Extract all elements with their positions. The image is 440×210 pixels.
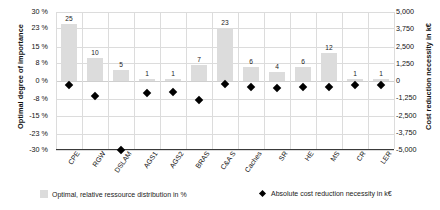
data-point-marker (325, 82, 333, 90)
bar (217, 28, 234, 81)
bar (87, 58, 104, 81)
plot-area: 25105117236461211 (56, 12, 394, 150)
bar-swatch-icon (40, 190, 48, 198)
data-point-marker (299, 83, 307, 91)
bar (113, 70, 130, 82)
bar-value-label: 1 (160, 70, 186, 77)
bar-value-label: 6 (238, 58, 264, 65)
chart-column: 23 (212, 12, 238, 149)
data-point-marker (65, 81, 73, 89)
gridline-vertical (394, 12, 395, 149)
y-axis-right-ticks: 5,0003,7502,5001,2500-1,250-2,500-3,750-… (396, 0, 432, 210)
bar (295, 67, 312, 81)
bar (321, 53, 338, 81)
y-axis-right-tick: 5,000 (396, 8, 432, 16)
legend-label-bars: Optimal, relative ressource distribution… (52, 191, 187, 198)
y-axis-left-tick: -23 % (14, 130, 48, 138)
data-point-marker (91, 92, 99, 100)
data-point-marker (143, 89, 151, 97)
chart-column: 25 (56, 12, 82, 149)
bar-value-label: 5 (108, 61, 134, 68)
y-axis-left-tick: -8 % (14, 95, 48, 103)
chart-column: 1 (134, 12, 160, 149)
bar-value-label: 1 (342, 70, 368, 77)
chart-legend: Optimal, relative ressource distribution… (40, 190, 440, 206)
series-layer: 25105117236461211 (56, 12, 394, 149)
bar-value-label: 1 (134, 70, 160, 77)
bar (191, 65, 208, 81)
chart-container: Optimal degree of importance Cost reduct… (0, 0, 440, 210)
chart-column: 1 (342, 12, 368, 149)
y-axis-right-tick: 0 (396, 77, 432, 85)
chart-column: 6 (290, 12, 316, 149)
bar (243, 67, 260, 81)
y-axis-left-tick: 0 % (14, 77, 48, 85)
y-axis-left-ticks: 30 %23 %15 %8 %0 %-8 %-15 %-23 %-30 % (14, 0, 48, 210)
data-point-marker (221, 80, 229, 88)
bar-value-label: 6 (290, 58, 316, 65)
y-axis-right-tick: 3,750 (396, 25, 432, 33)
chart-column: 6 (238, 12, 264, 149)
y-axis-left-tick: 15 % (14, 43, 48, 51)
chart-column: 10 (82, 12, 108, 149)
legend-item-markers: Absolute cost reduction necessity in k€ (258, 190, 392, 197)
y-axis-left-tick: 23 % (14, 24, 48, 32)
bar-value-label: 12 (316, 44, 342, 51)
bar-value-label: 1 (368, 70, 394, 77)
y-axis-left-tick: 30 % (14, 8, 48, 16)
y-axis-right-tick: -1,250 (396, 94, 432, 102)
bar-value-label: 10 (82, 49, 108, 56)
y-axis-left-tick: -30 % (14, 146, 48, 154)
y-axis-right-tick: 2,500 (396, 43, 432, 51)
bar-value-label: 4 (264, 63, 290, 70)
data-point-marker (273, 84, 281, 92)
data-point-marker (351, 81, 359, 89)
y-axis-left-tick: -15 % (14, 112, 48, 120)
bar (139, 79, 156, 81)
bar-value-label: 25 (56, 15, 82, 22)
y-axis-right-tick: -2,500 (396, 112, 432, 120)
chart-column: 7 (186, 12, 212, 149)
data-point-marker (169, 88, 177, 96)
chart-column: 1 (160, 12, 186, 149)
bar-value-label: 23 (212, 19, 238, 26)
chart-column: 12 (316, 12, 342, 149)
bar (269, 72, 286, 81)
legend-item-bars: Optimal, relative ressource distribution… (40, 190, 187, 198)
chart-column: 1 (368, 12, 394, 149)
y-axis-right-tick: -5,000 (396, 146, 432, 154)
data-point-marker (377, 81, 385, 89)
chart-column: 5 (108, 12, 134, 149)
y-axis-right-tick: -3,750 (396, 129, 432, 137)
bar (61, 24, 78, 82)
y-axis-right-tick: 1,250 (396, 60, 432, 68)
bar (165, 79, 182, 81)
data-point-marker (195, 96, 203, 104)
chart-column: 4 (264, 12, 290, 149)
y-axis-left-tick: 8 % (14, 59, 48, 67)
diamond-marker-icon (259, 190, 266, 197)
legend-label-markers: Absolute cost reduction necessity in k€ (271, 190, 392, 197)
bar-value-label: 7 (186, 56, 212, 63)
x-axis-labels: CPERGWDSLAMAGS1AGS2BRASC&A SCachesSRHEMS… (56, 150, 394, 190)
data-point-marker (247, 83, 255, 91)
